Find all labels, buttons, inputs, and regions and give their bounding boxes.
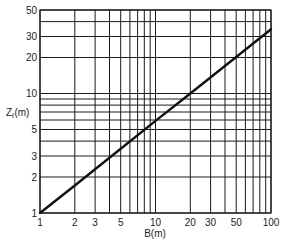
x-tick-label: 10	[150, 217, 162, 228]
x-tick-label: 2	[72, 217, 78, 228]
x-tick-label: 5	[118, 217, 124, 228]
y-axis-label: Zℓ(m)	[6, 107, 29, 119]
x-tick-label: 100	[263, 217, 280, 228]
y-axis-label-unit: (m)	[14, 107, 29, 118]
x-tick-label: 30	[205, 217, 217, 228]
y-tick-label: 1	[31, 208, 37, 219]
y-tick-label: 20	[26, 52, 38, 63]
x-axis-label: B(m)	[144, 228, 166, 239]
x-tick-label: 1	[37, 217, 43, 228]
log-log-chart: 123510203050100 123510203050 B(m) Zℓ(m)	[0, 0, 282, 244]
y-tick-label: 50	[26, 5, 38, 16]
y-tick-label: 5	[31, 124, 37, 135]
y-tick-label: 30	[26, 31, 38, 42]
x-tick-label: 20	[185, 217, 197, 228]
x-tick-label: 3	[92, 217, 98, 228]
y-tick-label: 3	[31, 151, 37, 162]
y-tick-label: 10	[26, 88, 38, 99]
y-tick-label: 2	[31, 172, 37, 183]
x-tick-label: 50	[231, 217, 243, 228]
x-tick-labels: 123510203050100	[37, 217, 280, 228]
